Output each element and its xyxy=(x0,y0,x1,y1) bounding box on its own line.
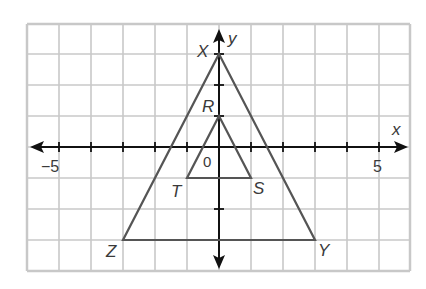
vertex-label-t: T xyxy=(171,182,183,201)
vertex-label-z: Z xyxy=(105,242,117,261)
axes xyxy=(30,29,408,269)
vertex-label-s: S xyxy=(253,179,265,198)
coordinate-plane: x y 0 −5 5 X Y Z R S T xyxy=(0,0,426,289)
origin-label: 0 xyxy=(203,153,211,170)
vertex-label-y: Y xyxy=(318,241,331,260)
y-axis-label: y xyxy=(227,29,238,48)
vertex-label-r: R xyxy=(202,97,214,116)
x-axis-label: x xyxy=(391,120,401,139)
vertex-label-x: X xyxy=(196,42,209,61)
tick-label-neg5: −5 xyxy=(41,158,59,175)
tick-label-5: 5 xyxy=(373,158,382,175)
